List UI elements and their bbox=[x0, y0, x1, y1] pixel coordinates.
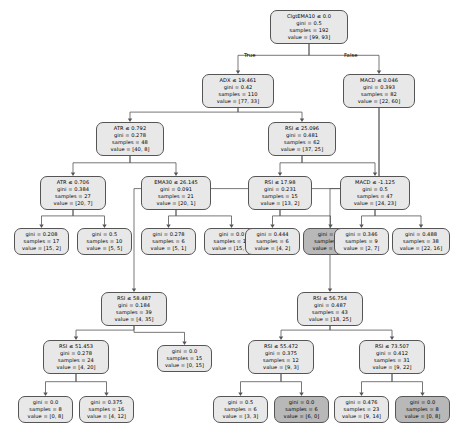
node-value: value = [20, 1] bbox=[144, 200, 208, 207]
node-value: value = [22, 60] bbox=[346, 98, 412, 105]
node-condition: ClgtEMA10 ≤ 0.0 bbox=[273, 13, 345, 20]
node-gini: gini = 0.393 bbox=[346, 84, 412, 91]
node-value: value = [24, 23] bbox=[343, 200, 407, 207]
node-condition: RSI ≤ 17.98 bbox=[251, 179, 309, 186]
node-gini: gini = 0.0 bbox=[398, 399, 447, 406]
tree-decision-node: RSI ≤ 56.754gini = 0.487samples = 43valu… bbox=[297, 292, 363, 326]
node-value: value = [3, 3] bbox=[216, 413, 265, 420]
node-samples: samples = 6 bbox=[216, 406, 265, 413]
tree-decision-node: ClgtEMA10 ≤ 0.0gini = 0.5samples = 192va… bbox=[270, 10, 348, 44]
node-gini: gini = 0.0 bbox=[160, 348, 209, 355]
tree-leaf-node: gini = 0.444samples = 6value = [4, 2] bbox=[245, 228, 300, 255]
tree-leaf-node: gini = 0.0samples = 6value = [6, 0] bbox=[274, 396, 329, 423]
node-samples: samples = 17 bbox=[17, 238, 66, 245]
node-value: value = [20, 7] bbox=[43, 200, 103, 207]
node-samples: samples = 15 bbox=[160, 355, 209, 362]
tree-decision-node: EMA30 ≤ 26.145gini = 0.091samples = 21va… bbox=[141, 176, 211, 210]
node-samples: samples = 15 bbox=[251, 193, 309, 200]
node-samples: samples = 16 bbox=[82, 406, 131, 413]
node-samples: samples = 43 bbox=[300, 309, 360, 316]
node-samples: samples = 6 bbox=[248, 238, 297, 245]
node-gini: gini = 0.278 bbox=[46, 350, 106, 357]
node-samples: samples = 31 bbox=[362, 357, 422, 364]
node-samples: samples = 8 bbox=[21, 406, 70, 413]
node-gini: gini = 0.5 bbox=[216, 399, 265, 406]
node-samples: samples = 8 bbox=[398, 406, 447, 413]
node-gini: gini = 0.384 bbox=[43, 186, 103, 193]
tree-decision-node: RSI ≤ 73.507gini = 0.412samples = 31valu… bbox=[359, 340, 425, 374]
node-value: value = [0, 15] bbox=[160, 362, 209, 369]
node-gini: gini = 0.487 bbox=[300, 302, 360, 309]
tree-leaf-node: gini = 0.0samples = 8value = [0, 8] bbox=[395, 396, 450, 423]
node-value: value = [4, 35] bbox=[104, 316, 164, 323]
tree-leaf-node: gini = 0.278samples = 6value = [5, 1] bbox=[141, 228, 196, 255]
node-value: value = [99, 93] bbox=[273, 34, 345, 41]
node-samples: samples = 47 bbox=[343, 193, 407, 200]
tree-decision-node: ATR ≤ 0.706gini = 0.384samples = 27value… bbox=[40, 176, 106, 210]
tree-decision-node: RSI ≤ 51.453gini = 0.278samples = 24valu… bbox=[43, 340, 109, 374]
node-samples: samples = 24 bbox=[46, 357, 106, 364]
node-value: value = [4, 12] bbox=[82, 413, 131, 420]
node-condition: RSI ≤ 73.507 bbox=[362, 343, 422, 350]
node-condition: ATR ≤ 0.792 bbox=[99, 125, 161, 132]
node-condition: RSI ≤ 56.754 bbox=[300, 295, 360, 302]
tree-decision-node: RSI ≤ 25.096gini = 0.481samples = 62valu… bbox=[268, 122, 336, 156]
node-samples: samples = 12 bbox=[251, 357, 311, 364]
node-samples: samples = 48 bbox=[99, 139, 161, 146]
node-gini: gini = 0.375 bbox=[251, 350, 311, 357]
node-condition: RSI ≤ 51.453 bbox=[46, 343, 106, 350]
tree-decision-node: MACD ≤ 0.046gini = 0.393samples = 82valu… bbox=[343, 74, 415, 108]
node-value: value = [4, 2] bbox=[248, 245, 297, 252]
node-gini: gini = 0.091 bbox=[144, 186, 208, 193]
node-value: value = [6, 0] bbox=[277, 413, 326, 420]
tree-edges bbox=[0, 0, 458, 440]
node-gini: gini = 0.42 bbox=[205, 84, 271, 91]
node-samples: samples = 82 bbox=[346, 91, 412, 98]
tree-leaf-node: gini = 0.0samples = 8value = [0, 8] bbox=[18, 396, 73, 423]
node-samples: samples = 23 bbox=[337, 406, 386, 413]
node-gini: gini = 0.5 bbox=[80, 231, 129, 238]
tree-decision-node: ATR ≤ 0.792gini = 0.278samples = 48value… bbox=[96, 122, 164, 156]
node-condition: EMA30 ≤ 26.145 bbox=[144, 179, 208, 186]
node-samples: samples = 9 bbox=[337, 238, 386, 245]
node-value: value = [18, 25] bbox=[300, 316, 360, 323]
node-gini: gini = 0.375 bbox=[82, 399, 131, 406]
tree-decision-node: RSI ≤ 55.472gini = 0.375samples = 12valu… bbox=[248, 340, 314, 374]
node-gini: gini = 0.444 bbox=[248, 231, 297, 238]
tree-decision-node: MACD ≤ -1.125gini = 0.5samples = 47value… bbox=[340, 176, 410, 210]
branch-label-false: False bbox=[344, 52, 358, 58]
node-gini: gini = 0.346 bbox=[337, 231, 386, 238]
node-gini: gini = 0.5 bbox=[273, 20, 345, 27]
node-gini: gini = 0.231 bbox=[251, 186, 309, 193]
node-condition: MACD ≤ 0.046 bbox=[346, 77, 412, 84]
node-value: value = [15, 2] bbox=[17, 245, 66, 252]
node-condition: RSI ≤ 55.472 bbox=[251, 343, 311, 350]
node-value: value = [77, 33] bbox=[205, 98, 271, 105]
node-samples: samples = 192 bbox=[273, 27, 345, 34]
tree-decision-node: ADX ≤ 19.461gini = 0.42samples = 110valu… bbox=[202, 74, 274, 108]
node-value: value = [2, 7] bbox=[337, 245, 386, 252]
node-gini: gini = 0.481 bbox=[271, 132, 333, 139]
node-value: value = [40, 8] bbox=[99, 146, 161, 153]
node-condition: ADX ≤ 19.461 bbox=[205, 77, 271, 84]
node-gini: gini = 0.488 bbox=[395, 231, 447, 238]
node-samples: samples = 110 bbox=[205, 91, 271, 98]
tree-decision-node: RSI ≤ 58.487gini = 0.184samples = 39valu… bbox=[101, 292, 167, 326]
node-value: value = [5, 1] bbox=[144, 245, 193, 252]
tree-leaf-node: gini = 0.5samples = 10value = [5, 5] bbox=[77, 228, 132, 255]
node-value: value = [13, 2] bbox=[251, 200, 309, 207]
node-value: value = [9, 22] bbox=[362, 364, 422, 371]
node-samples: samples = 27 bbox=[43, 193, 103, 200]
node-value: value = [0, 8] bbox=[398, 413, 447, 420]
node-condition: ATR ≤ 0.706 bbox=[43, 179, 103, 186]
node-gini: gini = 0.278 bbox=[99, 132, 161, 139]
node-gini: gini = 0.476 bbox=[337, 399, 386, 406]
tree-leaf-node: gini = 0.208samples = 17value = [15, 2] bbox=[14, 228, 69, 255]
tree-leaf-node: gini = 0.488samples = 38value = [22, 16] bbox=[392, 228, 450, 255]
node-value: value = [9, 14] bbox=[337, 413, 386, 420]
node-condition: RSI ≤ 25.096 bbox=[271, 125, 333, 132]
node-gini: gini = 0.0 bbox=[21, 399, 70, 406]
tree-leaf-node: gini = 0.5samples = 6value = [3, 3] bbox=[213, 396, 268, 423]
node-samples: samples = 21 bbox=[144, 193, 208, 200]
node-value: value = [0, 8] bbox=[21, 413, 70, 420]
